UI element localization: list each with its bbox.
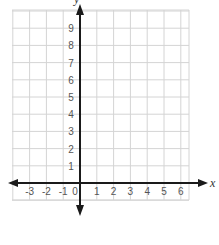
axes bbox=[8, 4, 208, 216]
x-tick-label: 1 bbox=[94, 186, 100, 197]
y-axis-label: y bbox=[73, 0, 80, 6]
x-tick-labels: -3-2-10123456 bbox=[25, 186, 184, 197]
y-tick-labels: 123456789 bbox=[68, 23, 74, 172]
x-tick-label: 6 bbox=[178, 186, 184, 197]
y-tick-label: 3 bbox=[68, 126, 74, 137]
x-axis-label: x bbox=[209, 176, 216, 190]
y-tick-label: 9 bbox=[68, 23, 74, 34]
y-axis-down-arrow-icon bbox=[76, 205, 84, 216]
x-tick-label: -3 bbox=[25, 186, 34, 197]
x-axis-right-arrow-icon bbox=[198, 179, 208, 187]
grid-lines bbox=[12, 10, 189, 200]
y-tick-label: 8 bbox=[68, 40, 74, 51]
y-tick-label: 2 bbox=[68, 144, 74, 155]
x-tick-label: 2 bbox=[111, 186, 117, 197]
x-tick-label: 3 bbox=[128, 186, 134, 197]
coordinate-plane: -3-2-10123456 123456789 x y bbox=[0, 0, 219, 245]
x-tick-label: 4 bbox=[144, 186, 150, 197]
x-tick-label: 0 bbox=[72, 186, 78, 197]
y-tick-label: 7 bbox=[68, 58, 74, 69]
x-tick-label: -1 bbox=[59, 186, 68, 197]
y-tick-label: 1 bbox=[68, 161, 74, 172]
x-tick-label: 5 bbox=[161, 186, 167, 197]
y-tick-label: 6 bbox=[68, 75, 74, 86]
y-tick-label: 5 bbox=[68, 92, 74, 103]
x-tick-label: -2 bbox=[42, 186, 51, 197]
y-tick-label: 4 bbox=[68, 109, 74, 120]
